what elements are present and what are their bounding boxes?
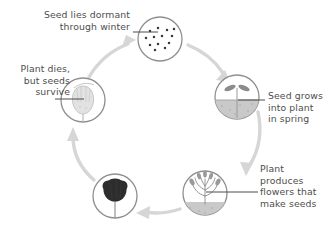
arrow-to-flowers-shaft (249, 112, 260, 166)
label-seed-dormant: Seed lies dormant through winter (12, 9, 130, 32)
arrowhead-to-flowers (240, 162, 253, 176)
label-plant-produces-flowers: Plant produces flowers that make seeds (260, 163, 328, 209)
stage-dormant-illustration (138, 17, 182, 61)
stage-grows-illustration (215, 75, 259, 120)
arrow-to-dies-shaft (73, 136, 94, 180)
arrow-to-dormant-shaft (89, 44, 128, 77)
cycle-diagram-canvas: Seed lies dormant through winter Plant d… (0, 0, 328, 226)
label-plant-dies: Plant dies, but seeds survive (2, 63, 70, 98)
label-seed-grows: Seed grows into plant in spring (268, 90, 328, 125)
arrowhead-to-dies (67, 127, 79, 141)
stage-seedhead-illustration (93, 174, 137, 220)
stage-flowers-illustration (183, 170, 227, 218)
arrow-to-seedhead-shaft (145, 209, 180, 213)
arrowhead-to-seedhead (136, 206, 150, 219)
arrow-to-grows-shaft (188, 45, 223, 73)
